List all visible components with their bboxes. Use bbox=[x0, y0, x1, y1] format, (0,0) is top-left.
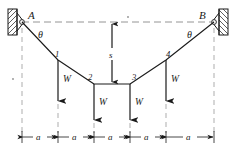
load-label-1: W bbox=[63, 74, 72, 84]
span-dimension-group: a a a a a bbox=[22, 131, 214, 143]
span-segment-label-5: a bbox=[186, 132, 191, 142]
load-group-node-1: W bbox=[58, 60, 72, 101]
load-label-3: W bbox=[135, 97, 144, 107]
load-label-4: W bbox=[171, 74, 180, 84]
span-segment-label-2: a bbox=[72, 132, 77, 142]
engineering-diagram-figure: A B bbox=[0, 0, 237, 153]
angle-label-right: θ bbox=[187, 29, 192, 40]
paper-speck bbox=[12, 78, 14, 80]
span-segment-label-3: a bbox=[108, 132, 113, 142]
paper-speck bbox=[127, 16, 129, 18]
extension-dashed-lines bbox=[22, 28, 214, 133]
node-label-3: 3 bbox=[131, 72, 136, 82]
support-label-A: A bbox=[27, 9, 35, 21]
diagram-canvas: A B bbox=[0, 0, 237, 153]
load-group-node-2: W bbox=[94, 84, 108, 120]
node-label-4: 4 bbox=[166, 49, 171, 59]
sag-dimension-group: s bbox=[106, 24, 118, 82]
load-group-node-4: W bbox=[166, 60, 180, 101]
span-segment-label-4: a bbox=[144, 132, 149, 142]
angle-label-left: θ bbox=[38, 29, 43, 40]
load-group-node-3: W bbox=[130, 84, 144, 120]
sag-label: s bbox=[109, 50, 113, 60]
node-label-1: 1 bbox=[55, 49, 59, 59]
load-label-2: W bbox=[99, 97, 108, 107]
support-label-B: B bbox=[199, 9, 206, 21]
node-label-2: 2 bbox=[88, 72, 93, 82]
span-segment-label-1: a bbox=[36, 132, 41, 142]
